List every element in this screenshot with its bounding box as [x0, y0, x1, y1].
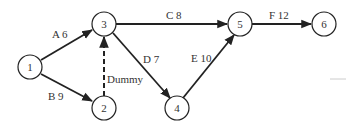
node-2: 2 — [92, 96, 116, 120]
edge-c-label: C 8 — [166, 9, 182, 21]
edge-d: D 7 — [113, 33, 170, 98]
network-diagram: A 6 B 9 Dummy C 8 D 7 E 10 F 12 1 2 3 4 — [0, 0, 352, 131]
node-4: 4 — [165, 96, 189, 120]
node-2-label: 2 — [101, 102, 107, 114]
edge-f: F 12 — [252, 9, 311, 24]
node-5: 5 — [228, 12, 252, 36]
edge-e-label: E 10 — [191, 52, 212, 64]
node-6: 6 — [312, 12, 336, 36]
node-1: 1 — [18, 55, 42, 79]
edge-a-label: A 6 — [52, 28, 68, 40]
node-3-label: 3 — [101, 18, 107, 30]
node-5-label: 5 — [237, 18, 243, 30]
node-3: 3 — [92, 12, 116, 36]
edge-c: C 8 — [116, 9, 227, 24]
node-6-label: 6 — [321, 18, 327, 30]
edge-b: B 9 — [41, 74, 92, 102]
edge-f-label: F 12 — [269, 9, 289, 21]
edge-b-label: B 9 — [48, 90, 64, 102]
edge-a: A 6 — [41, 28, 92, 60]
node-4-label: 4 — [174, 102, 180, 114]
node-1-label: 1 — [27, 61, 33, 73]
edge-d-label: D 7 — [143, 53, 160, 65]
edge-e: E 10 — [183, 35, 234, 98]
edge-dummy-label: Dummy — [107, 73, 144, 85]
